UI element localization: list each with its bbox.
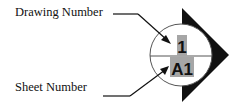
drawing-number-leader: [113, 14, 171, 44]
sheet-number-value: A1: [171, 60, 193, 79]
section-marker-diagram: 1 A1: [0, 0, 242, 110]
drawing-number-value: 1: [177, 38, 186, 57]
